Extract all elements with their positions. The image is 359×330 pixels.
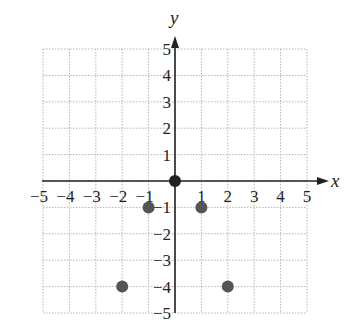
x-axis-label: x (330, 170, 340, 191)
y-tick-label: −1 (153, 198, 171, 217)
y-tick-label: 5 (163, 40, 172, 59)
x-axis-arrow-icon (317, 177, 329, 185)
y-tick-label: −3 (153, 251, 171, 270)
x-tick-label: 4 (276, 187, 285, 206)
y-tick-label: −4 (153, 278, 172, 297)
y-tick-label: 2 (163, 119, 172, 138)
y-tick-label: 1 (163, 146, 172, 165)
y-tick-label: 3 (163, 93, 172, 112)
x-tick-label: −5 (30, 187, 48, 206)
coordinate-plane: −5−4−3−2−112345−5−4−3−2−112345 x y (0, 0, 359, 330)
data-point (116, 281, 128, 293)
x-tick-label: −3 (83, 187, 101, 206)
y-tick-label: −5 (153, 304, 171, 323)
data-point (195, 201, 207, 213)
data-point (143, 201, 155, 213)
x-tick-label: −2 (109, 187, 127, 206)
x-tick-label: 5 (303, 187, 312, 206)
data-point (222, 281, 234, 293)
y-axis-arrow-icon (171, 36, 179, 48)
y-tick-label: −2 (153, 225, 171, 244)
axes (42, 36, 329, 313)
y-axis-label: y (168, 7, 179, 28)
x-tick-label: 2 (224, 187, 233, 206)
x-tick-label: −4 (56, 187, 75, 206)
y-tick-label: 4 (163, 66, 172, 85)
x-tick-label: 3 (250, 187, 259, 206)
data-point (169, 175, 181, 187)
